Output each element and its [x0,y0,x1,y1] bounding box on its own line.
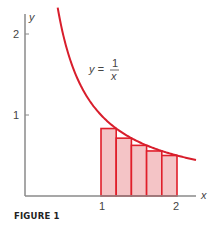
y-axis-label: y [28,11,36,23]
y-tick-label-1: 1 [13,109,19,121]
function-label-lhs: y = [88,63,105,75]
x-axis-label: x [200,189,207,201]
riemann-rectangle [116,138,131,196]
x-tick-label-1: 1 [99,200,105,210]
y-tick-label-2: 2 [13,28,19,40]
function-label-numerator: 1 [112,57,118,69]
riemann-rectangle [147,151,162,196]
function-label-denominator: x [110,70,117,82]
figure-caption: FIGURE 1 [14,211,60,221]
function-label: y = 1 x [88,57,119,82]
riemann-rectangle [162,156,177,197]
x-tick-label-2: 2 [173,200,179,210]
riemann-rectangle [131,145,146,196]
curve-one-over-x [58,8,196,160]
riemann-rectangles [101,129,177,196]
riemann-rectangle [101,129,116,196]
figure-plot: 2 1 y x 1 2 y = 1 x [0,0,220,210]
